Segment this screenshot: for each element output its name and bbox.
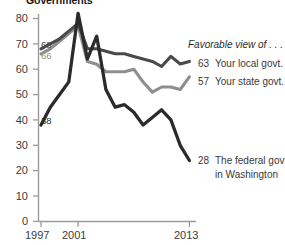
y-tick-label-40: 40 (8, 114, 28, 126)
y-tick-label-20: 20 (8, 164, 28, 176)
y-tick-label-80: 80 (8, 12, 28, 24)
legend-label-local-govt: Your local govt. (215, 58, 283, 69)
legend-row-local-govt: 63Your local govt. (192, 58, 283, 69)
y-tick-label-30: 30 (8, 139, 28, 151)
y-tick-label-70: 70 (8, 38, 28, 50)
y-tick-marks (33, 19, 39, 222)
chart-figure: Governments 80 70 6 (0, 0, 285, 245)
legend-title: Favorable view of . . . (188, 39, 283, 50)
start-label-state-govt: 66 (41, 50, 52, 61)
x-tick-label-2013: 2013 (174, 229, 198, 241)
legend-row-state-govt: 57Your state govt. (192, 76, 284, 87)
y-tick-label-0: 0 (8, 215, 28, 227)
y-tick-label-50: 50 (8, 88, 28, 100)
start-label-federal-govt: 38 (41, 115, 52, 126)
series-line-local-govt (41, 23, 189, 66)
legend-value-state-govt: 57 (192, 76, 209, 87)
start-label-local-govt: 68 (41, 39, 52, 50)
y-tick-label-60: 60 (8, 63, 28, 75)
legend-value-federal-govt: 28 (192, 155, 209, 166)
legend-label-federal-govt: The federal govt. (215, 155, 285, 166)
x-tick-label-2001: 2001 (62, 229, 86, 241)
legend-label-state-govt: Your state govt. (215, 76, 284, 87)
legend-label-federal-govt-line2: in Washington (215, 169, 278, 180)
y-tick-label-10: 10 (8, 190, 28, 202)
legend-value-local-govt: 63 (192, 58, 209, 69)
x-tick-marks (41, 222, 189, 228)
legend-row-federal-govt: 28The federal govt. (192, 155, 285, 166)
x-tick-label-1997: 1997 (25, 229, 49, 241)
